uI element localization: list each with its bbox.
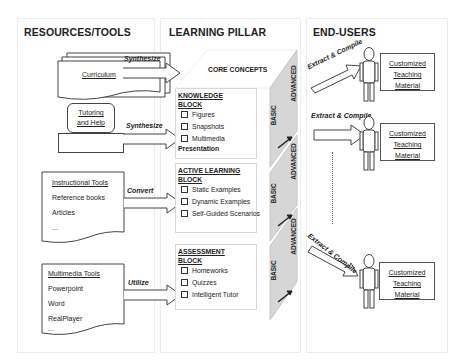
- block-item: Self-Guided Scenarios: [178, 208, 254, 220]
- block-item: Quizzes: [178, 277, 254, 289]
- arrow-label-convert: Convert: [127, 187, 153, 194]
- arrow-label-synthesize-2: Synthesize: [126, 122, 163, 129]
- knowledge-block: KNOWLEDGE BLOCK Figures Snapshots Multim…: [175, 88, 257, 159]
- customized-material-1: Customized Teaching Material: [380, 53, 435, 91]
- basic-label-3: BASIC: [270, 260, 277, 280]
- block-item: Intelligent Tutor: [178, 289, 254, 301]
- arrow-label-utilize: Utilize: [128, 279, 149, 286]
- active-learning-block: ACTIVE LEARNING BLOCK Static Examples Dy…: [175, 163, 257, 233]
- tutoring-screen: Tutoring and Help: [67, 103, 115, 133]
- block-item: Snapshots: [178, 121, 254, 133]
- multimedia-tools-text: Multimedia Tools Powerpoint Word RealPla…: [48, 266, 100, 332]
- advanced-label-2: ADVANCED: [290, 143, 297, 179]
- person-icon-2: [359, 116, 379, 176]
- basic-label-1: BASIC: [270, 105, 277, 125]
- block-item: Multimedia: [178, 133, 254, 144]
- advanced-label-1: ADVANCED: [290, 65, 297, 101]
- tutoring-base: [58, 133, 124, 153]
- assessment-block: ASSESSMENT BLOCK Homeworks Quizzes Intel…: [175, 244, 257, 310]
- arrow-extract-3-icon: [307, 243, 367, 283]
- core-concepts-label: CORE CONCEPTS: [208, 66, 267, 73]
- curriculum-label: Curriculum: [82, 71, 116, 78]
- advanced-label-3: ADVANCED: [290, 218, 297, 254]
- pillar-heading: LEARNING PILLAR: [169, 26, 266, 38]
- continuation-dots: [332, 152, 333, 224]
- block-item: Figures: [178, 109, 254, 121]
- instructional-tools-text: Instructional Tools Reference books Arti…: [52, 175, 108, 235]
- person-icon-1: [359, 47, 379, 107]
- users-heading: END-USERS: [313, 26, 376, 38]
- basic-label-2: BASIC: [270, 183, 277, 203]
- resources-heading: RESOURCES/TOOLS: [24, 26, 131, 38]
- customized-material-2: Customized Teaching Material: [380, 123, 435, 161]
- block-item: Dynamic Examples: [178, 196, 254, 208]
- arrow-label-synthesize-1: Synthesize: [124, 55, 161, 62]
- person-icon-3: [359, 254, 379, 314]
- block-item: Homeworks: [178, 265, 254, 277]
- customized-material-3: Customized Teaching Material: [379, 262, 435, 300]
- block-item: Static Examples: [178, 184, 254, 196]
